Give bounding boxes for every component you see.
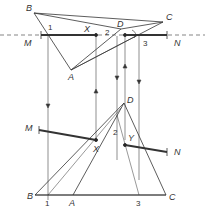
- label-y-front: Y: [128, 133, 135, 143]
- label-a-front: A: [68, 198, 75, 208]
- label-c-front: C: [169, 192, 176, 202]
- point-1-top: 1: [48, 23, 53, 32]
- projection-lines: [46, 36, 141, 200]
- label-m-front: M: [25, 123, 33, 133]
- label-d-front: D: [127, 95, 134, 105]
- point-1-front: 1: [45, 199, 50, 208]
- label-a-top: A: [67, 72, 74, 82]
- point-3-front: 3: [136, 199, 141, 208]
- label-d-top: D: [117, 19, 124, 29]
- point-2-front: 2: [113, 128, 118, 137]
- label-n-front: N: [174, 147, 181, 157]
- label-m-top: M: [24, 38, 32, 48]
- label-n-top: N: [174, 38, 181, 48]
- projection-diagram: B C D A X M N 1 2 3 D M N X Y 2 B 1 A 3 …: [0, 0, 205, 214]
- label-x-front: X: [92, 144, 100, 154]
- front-view: [35, 103, 167, 195]
- label-c-top: C: [166, 12, 173, 22]
- point-3-top: 3: [143, 39, 148, 48]
- label-b-top: B: [26, 3, 32, 13]
- label-b-front: B: [27, 191, 33, 201]
- label-x-top: X: [83, 24, 91, 34]
- line-mx-front: [39, 130, 96, 140]
- point-2-top: 2: [105, 28, 110, 37]
